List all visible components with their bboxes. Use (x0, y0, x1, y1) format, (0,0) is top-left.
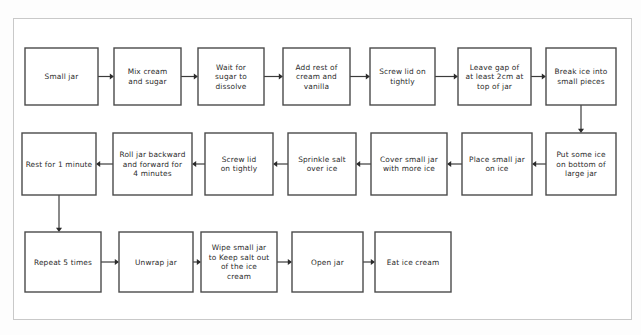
flow-node[interactable]: Unwrap jar (119, 232, 193, 292)
flow-connector (363, 259, 375, 265)
flow-connector (350, 73, 370, 79)
flow-node-label: Break ice intosmall pieces (555, 67, 608, 86)
flow-node-label: Cover small jarwith more ice (380, 155, 439, 174)
flow-node[interactable]: Sprinkle saltover ice (288, 133, 356, 195)
flow-connector (98, 73, 114, 79)
flow-connector (56, 195, 62, 232)
flow-connector (181, 73, 198, 79)
flow-node-label: Wait forsugar todissolve (215, 63, 247, 91)
flow-node[interactable]: Eat ice cream (375, 232, 451, 292)
flow-connector (356, 161, 371, 167)
flow-node[interactable]: Rest for 1 minute (22, 133, 96, 195)
flow-node-label: Repeat 5 times (34, 258, 92, 267)
flow-connector (578, 105, 584, 133)
flow-node-label: Small jar (45, 72, 80, 81)
flow-connector (273, 161, 288, 167)
flow-connector (264, 73, 283, 79)
flow-node-label: Unwrap jar (135, 258, 178, 267)
flowchart-canvas: Small jarMix creamand sugarWait forsugar… (0, 0, 641, 335)
flow-node-label: Eat ice cream (387, 258, 440, 267)
flow-node[interactable]: Break ice intosmall pieces (546, 48, 616, 105)
flow-node[interactable]: Place small jaron ice (462, 133, 532, 195)
flow-node[interactable]: Wait forsugar todissolve (198, 48, 264, 105)
flowchart-svg: Small jarMix creamand sugarWait forsugar… (0, 0, 641, 335)
flow-node-label: Rest for 1 minute (26, 160, 93, 169)
flow-node[interactable]: Cover small jarwith more ice (371, 133, 447, 195)
flow-node[interactable]: Small jar (25, 48, 98, 105)
flow-connector (435, 73, 458, 79)
flow-node[interactable]: Repeat 5 times (25, 232, 101, 292)
flow-connector (193, 259, 201, 265)
flow-node-label: Screw lidon tightly (221, 155, 258, 174)
flow-connector (532, 161, 546, 167)
flow-node[interactable]: Leave gap ofat least 2cm attop of jar (458, 48, 531, 105)
flow-node[interactable]: Put some iceon bottom oflarge jar (546, 133, 616, 195)
flow-node[interactable]: Screw lid ontightly (370, 48, 435, 105)
flow-node[interactable]: Screw lidon tightly (205, 133, 273, 195)
flow-node[interactable]: Open jar (292, 232, 363, 292)
flow-connector (192, 161, 205, 167)
flow-connector (101, 259, 119, 265)
node-layer: Small jarMix creamand sugarWait forsugar… (22, 48, 616, 292)
flow-connector (531, 73, 546, 79)
flow-connector (96, 161, 113, 167)
flow-node[interactable]: Wipe small jarto Keep salt outof the ice… (201, 232, 277, 292)
flow-node-label: Open jar (311, 258, 345, 267)
flow-node[interactable]: Roll jar backwardand forward for4 minute… (113, 133, 192, 195)
flow-node[interactable]: Mix creamand sugar (114, 48, 181, 105)
flow-connector (447, 161, 462, 167)
flow-node[interactable]: Add rest ofcream andvanilla (283, 48, 350, 105)
flow-connector (277, 259, 292, 265)
flow-node-label: Mix creamand sugar (128, 67, 168, 86)
